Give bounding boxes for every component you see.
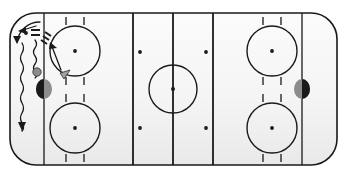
goal-marker-left [36,79,52,99]
neutral-dot-bottom-right [204,126,208,130]
hockey-rink-diagram [0,0,347,178]
goal-marker-right [294,79,310,99]
faceoff-circle-left-top-dot [73,49,77,53]
puck-marker [24,31,28,35]
faceoff-circle-right-bottom-dot [270,126,274,130]
net-symbol-bar-bottom [31,34,40,36]
player-marker-corner [33,68,41,76]
rink-svg-canvas [0,0,347,178]
neutral-dot-top-left [138,50,142,54]
net-symbol-bar-top [31,29,40,31]
faceoff-circle-left-bottom-dot [73,126,77,130]
neutral-dot-top-right [204,50,208,54]
faceoff-circle-right-top-dot [270,49,274,53]
center-faceoff-dot [171,87,175,91]
neutral-dot-bottom-left [138,126,142,130]
